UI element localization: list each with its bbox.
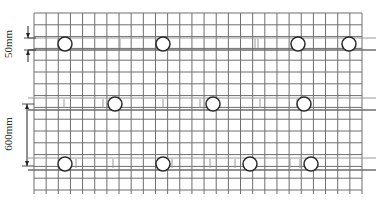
circle-marker bbox=[243, 157, 257, 171]
arrow-head-icon bbox=[25, 161, 29, 166]
dimension-label-600mm: 600mm bbox=[2, 117, 14, 151]
circle-marker bbox=[297, 97, 311, 111]
grid-diagram bbox=[0, 0, 382, 201]
circle-marker bbox=[342, 37, 356, 51]
arrow-head-icon bbox=[25, 104, 29, 109]
circle-marker bbox=[58, 157, 72, 171]
arrow-head-icon bbox=[26, 50, 30, 55]
circle-marker bbox=[291, 37, 305, 51]
circle-marker bbox=[206, 97, 220, 111]
circle-marker bbox=[58, 37, 72, 51]
arrow-head-icon bbox=[26, 33, 30, 38]
circle-marker bbox=[108, 97, 122, 111]
circle-marker bbox=[304, 157, 318, 171]
circle-marker bbox=[156, 157, 170, 171]
dimension-label-50mm: 50mm bbox=[2, 30, 14, 58]
circle-marker bbox=[156, 37, 170, 51]
